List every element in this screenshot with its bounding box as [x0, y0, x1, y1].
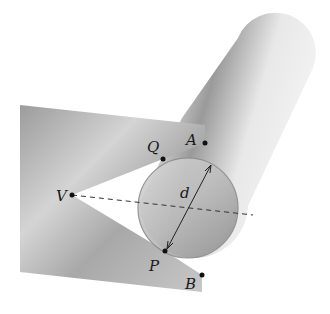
point-V — [70, 193, 75, 198]
label-d: d — [180, 184, 190, 202]
point-P — [163, 249, 168, 254]
point-B — [200, 273, 205, 278]
v-block-diagram: A Q V d P B — [0, 0, 330, 314]
label-B: B — [184, 275, 196, 293]
point-A — [203, 141, 208, 146]
label-Q: Q — [147, 138, 159, 156]
label-A: A — [184, 131, 197, 149]
point-Q — [161, 157, 166, 162]
label-P: P — [148, 257, 160, 275]
